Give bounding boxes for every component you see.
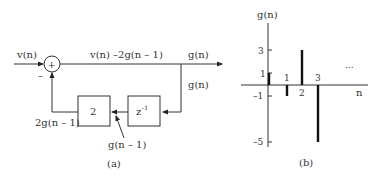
x-tick-label-2: 2 [299, 88, 305, 98]
delay-output-pointer [116, 116, 124, 138]
y-tick-label-neg1: –1 [253, 91, 263, 101]
figure: v(n) + – v(n) –2g(n – 1) g(n) g(n) z–1 2… [0, 0, 381, 178]
error-label: v(n) –2g(n – 1) [89, 49, 163, 60]
input-label: v(n) [16, 49, 37, 60]
y-tick-label-neg5: –5 [253, 137, 264, 147]
delay-block-label: z–1 [136, 104, 148, 117]
continuation-ellipsis: ... [345, 60, 354, 70]
feedback-label: g(n) [188, 79, 209, 90]
delay-block [128, 96, 160, 126]
y-axis-label: g(n) [257, 9, 278, 20]
sum-symbol: + [48, 59, 56, 70]
x-tick-label-3: 3 [315, 73, 321, 83]
x-axis-label: n [356, 87, 363, 98]
caption-a: (a) [107, 158, 121, 169]
delay-output-label: g(n – 1) [108, 139, 146, 150]
output-label: g(n) [188, 49, 209, 60]
y-tick-label-1: 1 [260, 69, 266, 79]
gain-output-label: 2g(n – 1) [35, 117, 80, 128]
minus-sign: – [38, 70, 43, 81]
gain-to-sum-arrow [52, 73, 78, 112]
x-tick-label-1: 1 [284, 73, 290, 83]
y-tick-label-3: 3 [258, 46, 264, 56]
feedback-path [163, 64, 181, 112]
gain-block-label: 2 [90, 106, 96, 117]
stem-plot: g(n) n 3 1 –1 –5 1 2 3 ... (b) [241, 9, 368, 168]
caption-b: (b) [299, 157, 313, 168]
block-diagram: v(n) + – v(n) –2g(n – 1) g(n) g(n) z–1 2… [14, 49, 222, 169]
